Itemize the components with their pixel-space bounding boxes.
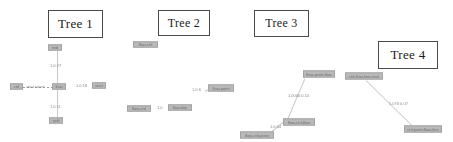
tree-diagram-canvas: 1.0:27start:count1.0:181.0:111.01.0:61.0… bbox=[0, 0, 453, 142]
edge-label: start:count bbox=[26, 84, 45, 89]
tree-label-box-2: Tree 2 bbox=[158, 10, 210, 36]
tree-label-box-4: Tree 4 bbox=[378, 41, 438, 69]
tree-node[interactable]: ctrl-flow-line-start bbox=[345, 72, 383, 79]
edge-label: 1.0 bbox=[157, 105, 163, 110]
tree-node[interactable]: flow-ctrl bbox=[127, 105, 151, 111]
tree-node[interactable]: flow bbox=[52, 83, 66, 89]
tree-node[interactable]: mid bbox=[48, 44, 62, 50]
tree-node[interactable]: flow-ctrl-point bbox=[240, 131, 274, 138]
tree-node[interactable]: start bbox=[92, 82, 106, 88]
tree-node[interactable]: ctrl bbox=[10, 83, 23, 89]
tree-node[interactable]: flow-ctrl bbox=[133, 41, 158, 47]
edge-label: 1.0:11 bbox=[50, 104, 61, 109]
edge-label: 1.0:6 bbox=[192, 87, 201, 92]
edge-label: 1.0000:0.10 bbox=[288, 93, 309, 98]
tree-edge bbox=[288, 78, 306, 118]
edge-label: 1.0:18 bbox=[76, 83, 87, 88]
tree-node[interactable]: flow-line bbox=[168, 104, 192, 110]
tree-node[interactable]: split bbox=[49, 117, 63, 123]
tree-label-box-1: Tree 1 bbox=[48, 10, 103, 38]
tree-label-box-3: Tree 3 bbox=[254, 10, 309, 37]
edge-label: 1.076:0.07 bbox=[389, 101, 408, 106]
tree-node[interactable]: ctrl-point-flow-line bbox=[404, 125, 442, 132]
tree-node[interactable]: flow-point bbox=[208, 84, 234, 91]
edge-label: 1.0:27 bbox=[50, 63, 61, 68]
tree-node[interactable]: flow-ctrl-flow bbox=[283, 118, 315, 125]
tree-node[interactable]: flow-point-flow bbox=[303, 70, 335, 77]
edge-label: 1.0:04 bbox=[270, 124, 281, 129]
